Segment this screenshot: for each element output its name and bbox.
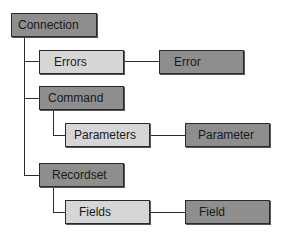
node-command: Command	[39, 86, 124, 110]
connector-connection-recordset	[24, 175, 39, 176]
connector-errors-error	[124, 61, 159, 62]
connector-command-parameters-vertical	[53, 110, 54, 135]
node-parameter: Parameter	[185, 123, 270, 147]
node-label: Errors	[54, 51, 87, 73]
connector-recordset-fields	[53, 212, 65, 213]
node-label: Parameter	[198, 124, 254, 146]
node-label: Command	[48, 87, 103, 109]
node-errors: Errors	[39, 50, 124, 74]
node-connection: Connection	[11, 13, 97, 37]
connector-parameters-parameter	[150, 135, 185, 136]
connector-command-parameters	[53, 135, 65, 136]
node-label: Recordset	[52, 164, 107, 186]
object-model-diagram: Connection Errors Error Command Paramete…	[0, 0, 283, 235]
node-error: Error	[159, 50, 244, 74]
node-field: Field	[185, 200, 270, 224]
connector-connection-errors	[24, 61, 39, 62]
connector-recordset-fields-vertical	[53, 187, 54, 212]
node-fields: Fields	[65, 200, 150, 224]
connector-connection-command	[24, 98, 39, 99]
node-label: Connection	[18, 14, 79, 36]
connector-fields-field	[150, 212, 185, 213]
node-parameters: Parameters	[65, 123, 150, 147]
node-label: Field	[199, 201, 225, 223]
node-label: Error	[174, 51, 201, 73]
node-label: Fields	[79, 201, 111, 223]
node-label: Parameters	[74, 124, 136, 146]
node-recordset: Recordset	[39, 163, 124, 187]
connector-connection-trunk	[24, 36, 25, 176]
